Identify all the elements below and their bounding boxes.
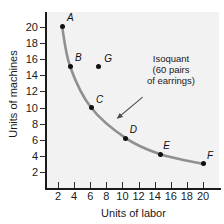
point-label-e: E xyxy=(163,141,170,151)
x-tick-label: 20 xyxy=(193,191,213,202)
isoquant-annotation: Isoquant(60 pairsof earrings) xyxy=(128,53,214,86)
annotation-line: Isoquant xyxy=(128,53,214,64)
point-label-f: F xyxy=(207,151,213,161)
point-label-d: D xyxy=(130,125,137,135)
x-tick-mark xyxy=(74,182,75,188)
point-label-b: B xyxy=(75,53,82,63)
y-tick-mark xyxy=(40,91,46,92)
x-tick-mark xyxy=(90,182,91,188)
annotation-line: of earrings) xyxy=(128,75,214,86)
x-tick-mark xyxy=(155,182,156,188)
data-point-c xyxy=(89,105,94,110)
x-tick-mark xyxy=(139,182,140,188)
data-point-g xyxy=(96,64,101,69)
x-tick-mark xyxy=(187,182,188,188)
x-tick-mark xyxy=(106,182,107,188)
x-tick-mark xyxy=(203,182,204,188)
annotation-line: (60 pairs xyxy=(128,64,214,75)
y-tick-mark xyxy=(40,75,46,76)
y-tick-mark xyxy=(40,124,46,125)
y-tick-label: 8 xyxy=(18,119,38,130)
y-tick-label: 2 xyxy=(18,167,38,178)
y-tick-mark xyxy=(40,172,46,173)
data-point-b xyxy=(68,64,73,69)
y-tick-label: 12 xyxy=(18,86,38,97)
point-label-a: A xyxy=(67,13,74,23)
y-tick-mark xyxy=(40,43,46,44)
x-tick-mark xyxy=(58,182,59,188)
point-label-g: G xyxy=(104,54,112,64)
y-tick-mark xyxy=(40,140,46,141)
y-tick-mark xyxy=(40,27,46,28)
y-tick-mark xyxy=(40,59,46,60)
y-tick-label: 10 xyxy=(18,103,38,114)
y-axis-line xyxy=(45,12,47,190)
y-tick-label: 4 xyxy=(18,151,38,162)
x-tick-mark xyxy=(171,182,172,188)
y-tick-label: 18 xyxy=(18,38,38,49)
x-axis-title: Units of labor xyxy=(46,207,221,219)
point-label-c: C xyxy=(96,95,103,105)
isoquant-chart: 24681012141618202468101214161820 ABCDEFG… xyxy=(0,0,224,224)
y-tick-label: 14 xyxy=(18,70,38,81)
data-point-e xyxy=(158,152,163,157)
y-axis-title: Units of machines xyxy=(7,29,19,159)
data-point-a xyxy=(60,24,65,29)
y-tick-mark xyxy=(40,108,46,109)
y-tick-label: 16 xyxy=(18,54,38,65)
y-tick-label: 6 xyxy=(18,135,38,146)
y-tick-mark xyxy=(40,156,46,157)
x-tick-mark xyxy=(122,182,123,188)
y-tick-label: 20 xyxy=(18,22,38,33)
data-point-d xyxy=(123,136,128,141)
